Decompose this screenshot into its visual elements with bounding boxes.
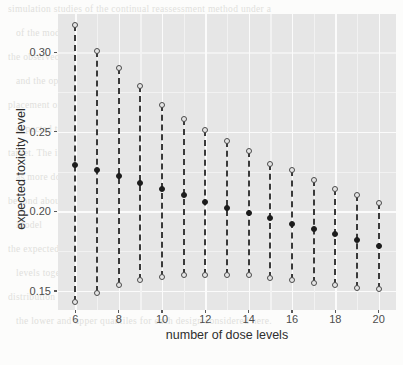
y-axis-label: expected toxicity level — [14, 74, 28, 264]
background-text-line: the lower and upper quantiles for each d… — [16, 316, 272, 326]
upper-quantile-point — [289, 167, 295, 173]
x-axis-label: number of dose levels — [58, 328, 396, 342]
upper-quantile-point — [181, 116, 187, 122]
expected-toxicity-point — [267, 215, 273, 221]
lower-quantile-point — [246, 272, 252, 278]
lower-quantile-point — [267, 275, 273, 281]
x-tick-mark — [118, 310, 119, 313]
upper-quantile-point — [354, 192, 360, 198]
y-tick-mark — [54, 52, 57, 53]
y-tick-label: 0.30 — [5, 46, 51, 58]
plot-panel — [58, 14, 396, 310]
x-tick-label: 18 — [329, 313, 341, 325]
quantile-interval-line — [269, 164, 271, 279]
lower-quantile-point — [116, 282, 122, 288]
x-tick-mark — [161, 310, 162, 313]
expected-toxicity-point — [376, 243, 382, 249]
lower-quantile-point — [289, 277, 295, 283]
quantile-interval-line — [334, 189, 336, 285]
upper-quantile-point — [376, 200, 382, 206]
lower-quantile-point — [202, 272, 208, 278]
lower-quantile-point — [311, 280, 317, 286]
upper-quantile-point — [267, 161, 273, 167]
y-tick-label: 0.25 — [5, 126, 51, 138]
expected-toxicity-point — [354, 237, 360, 243]
expected-toxicity-point — [332, 231, 338, 237]
expected-toxicity-point — [159, 186, 165, 192]
y-tick-mark — [54, 211, 57, 212]
expected-toxicity-point — [72, 162, 78, 168]
lower-quantile-point — [159, 274, 165, 280]
expected-toxicity-point — [311, 226, 317, 232]
x-tick-mark — [378, 310, 379, 313]
expected-toxicity-point — [137, 180, 143, 186]
upper-quantile-point — [311, 177, 317, 183]
expected-toxicity-point — [116, 173, 122, 179]
upper-quantile-point — [116, 65, 122, 71]
upper-quantile-point — [137, 83, 143, 89]
y-tick-mark — [54, 131, 57, 132]
x-tick-label: 20 — [373, 313, 385, 325]
lower-quantile-point — [94, 290, 100, 296]
x-tick-mark — [248, 310, 249, 313]
expected-toxicity-point — [224, 205, 230, 211]
x-tick-mark — [335, 310, 336, 313]
upper-quantile-point — [246, 148, 252, 154]
x-tick-label: 8 — [116, 313, 122, 325]
expected-toxicity-point — [181, 192, 187, 198]
lower-quantile-point — [181, 272, 187, 278]
x-tick-mark — [75, 310, 76, 313]
expected-toxicity-point — [202, 199, 208, 205]
upper-quantile-point — [94, 48, 100, 54]
background-text-line: simulation studies of the continual reas… — [8, 4, 271, 14]
upper-quantile-point — [224, 138, 230, 144]
x-tick-label: 14 — [243, 313, 255, 325]
expected-toxicity-point — [94, 167, 100, 173]
lower-quantile-point — [137, 277, 143, 283]
x-tick-label: 10 — [156, 313, 168, 325]
lower-quantile-point — [332, 282, 338, 288]
x-tick-label: 12 — [199, 313, 211, 325]
lower-quantile-point — [376, 286, 382, 292]
y-tick-label: 0.15 — [5, 285, 51, 297]
y-tick-mark — [54, 290, 57, 291]
expected-toxicity-point — [289, 221, 295, 227]
figure-panel: simulation studies of the continual reas… — [0, 0, 403, 365]
lower-quantile-point — [72, 299, 78, 305]
upper-quantile-point — [332, 186, 338, 192]
x-tick-label: 6 — [72, 313, 78, 325]
upper-quantile-point — [159, 102, 165, 108]
x-tick-label: 16 — [286, 313, 298, 325]
lower-quantile-point — [354, 285, 360, 291]
upper-quantile-point — [72, 22, 78, 28]
x-tick-mark — [205, 310, 206, 313]
y-tick-label: 0.20 — [5, 205, 51, 217]
expected-toxicity-point — [246, 210, 252, 216]
x-tick-mark — [291, 310, 292, 313]
lower-quantile-point — [224, 272, 230, 278]
